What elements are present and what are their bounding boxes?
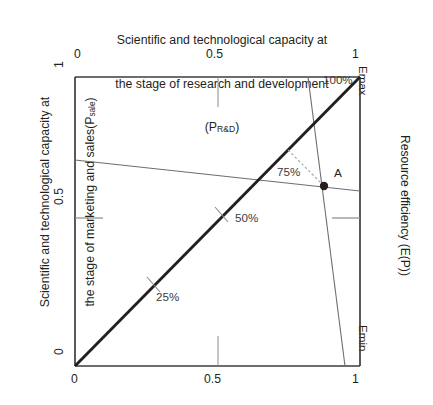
projection-dashed-line <box>288 150 324 186</box>
point-a-marker <box>320 182 328 190</box>
series-steep-resource-line <box>308 77 345 366</box>
chart-figure: Scientific and technological capacity at… <box>0 0 433 405</box>
series-iso-efficiency-diagonal <box>75 77 360 366</box>
plot-canvas <box>0 0 433 405</box>
series-shallow-resource-line <box>75 160 360 191</box>
